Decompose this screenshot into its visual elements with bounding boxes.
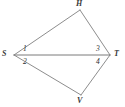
edge-H-T xyxy=(80,10,110,55)
angle-label-1: 1 xyxy=(23,45,27,53)
geometry-figure: S H T V 1 2 3 4 xyxy=(0,0,125,107)
angle-label-2: 2 xyxy=(23,58,27,66)
angle-label-4: 4 xyxy=(96,58,100,66)
vertex-label-S: S xyxy=(2,50,6,58)
figure-canvas xyxy=(0,0,125,107)
vertex-label-H: H xyxy=(76,0,82,8)
angle-label-3: 3 xyxy=(96,45,100,53)
vertex-label-V: V xyxy=(77,97,82,105)
vertex-label-T: T xyxy=(114,50,119,58)
